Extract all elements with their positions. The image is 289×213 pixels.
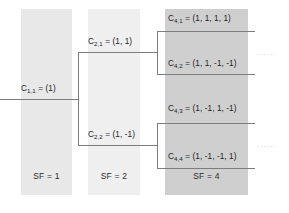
- node-label-c42: C4,2 = (1, 1, -1, -1): [168, 59, 237, 68]
- continuation-ellipsis-lower: ......: [257, 140, 276, 149]
- node-c41-value: = (1, 1, 1, 1): [183, 14, 231, 23]
- node-label-c43: C4,3 = (1, -1, 1, -1): [168, 104, 237, 113]
- edge-c22-to-c44: [157, 168, 255, 169]
- node-label-c44: C4,4 = (1, -1, -1, 1): [168, 152, 237, 161]
- edge-c21-to-c42: [157, 74, 255, 75]
- edge-c21-to-c41: [157, 31, 255, 32]
- node-c44-subscript: 4,4: [174, 155, 183, 162]
- ovsf-code-tree-diagram: SF = 1 SF = 2 SF = 4 C1,1 = (1) C2,1 = (…: [0, 0, 289, 213]
- node-c11-value: = (1): [36, 84, 56, 93]
- node-c21-value: = (1, 1): [103, 37, 132, 46]
- edge-c22-split: [157, 123, 158, 168]
- node-c21-subscript: 2,1: [94, 40, 103, 47]
- node-c41-subscript: 4,1: [174, 17, 183, 24]
- node-label-c41: C4,1 = (1, 1, 1, 1): [168, 14, 231, 23]
- node-c11-subscript: 1,1: [27, 87, 36, 94]
- edge-c22-to-c43: [157, 123, 255, 124]
- node-c22-subscript: 2,2: [94, 133, 103, 140]
- node-c43-value: = (1, -1, 1, -1): [183, 104, 237, 113]
- node-c22-value: = (1, -1): [103, 130, 135, 139]
- sf-label-sf4: SF = 4: [165, 171, 248, 181]
- edge-root-split: [78, 52, 79, 146]
- column-band-sf1: SF = 1: [21, 9, 72, 195]
- node-c44-value: = (1, -1, -1, 1): [183, 152, 237, 161]
- node-c42-value: = (1, 1, -1, -1): [183, 59, 237, 68]
- edge-root-to-c21: [78, 52, 157, 53]
- node-label-c21: C2,1 = (1, 1): [88, 37, 132, 46]
- node-label-c22: C2,2 = (1, -1): [88, 130, 135, 139]
- node-c43-subscript: 4,3: [174, 107, 183, 114]
- node-c42-subscript: 4,2: [174, 62, 183, 69]
- node-label-c11: C1,1 = (1): [21, 84, 56, 93]
- continuation-ellipsis-upper: ......: [257, 48, 276, 57]
- edge-c21-split: [157, 31, 158, 75]
- edge-root-stem: [0, 99, 78, 100]
- sf-label-sf1: SF = 1: [21, 171, 72, 181]
- edge-root-to-c22: [78, 145, 157, 146]
- sf-label-sf2: SF = 2: [88, 171, 140, 181]
